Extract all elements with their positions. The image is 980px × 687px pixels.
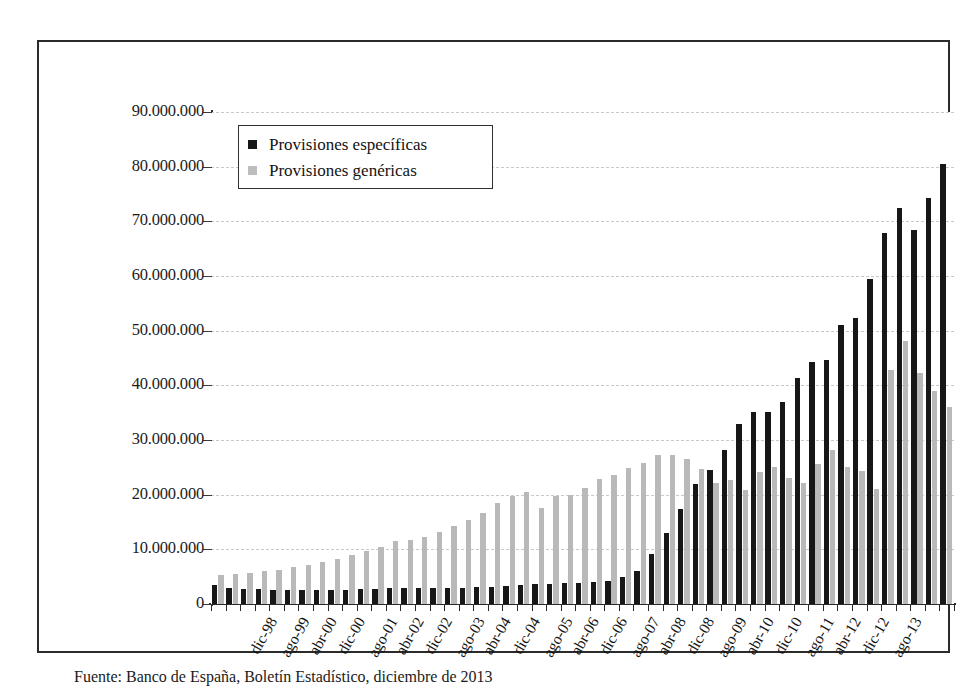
y-axis-tick-label: 30.000.000 bbox=[132, 429, 204, 449]
x-axis-tick bbox=[765, 605, 766, 611]
bar-specific bbox=[882, 233, 887, 604]
x-axis-tick-label: ago-05 bbox=[539, 614, 576, 660]
bar-generic bbox=[626, 468, 631, 604]
bar-specific bbox=[736, 424, 741, 604]
legend-item-generic: Provisiones genéricas bbox=[248, 157, 482, 183]
x-axis-tick bbox=[575, 605, 576, 611]
y-axis-tick bbox=[203, 276, 212, 277]
x-axis-tick bbox=[342, 605, 343, 611]
bar-specific bbox=[562, 583, 567, 604]
bar-generic bbox=[335, 559, 340, 604]
x-axis-tick bbox=[269, 605, 270, 611]
bar-generic bbox=[670, 455, 675, 604]
y-axis-tick-label: 50.000.000 bbox=[132, 320, 204, 340]
bar-specific bbox=[518, 585, 523, 604]
bar-generic bbox=[874, 489, 879, 604]
x-axis-tick bbox=[546, 605, 547, 611]
x-axis-tick-label: ago-09 bbox=[714, 614, 751, 660]
bar-generic bbox=[218, 575, 223, 604]
x-axis-tick bbox=[502, 605, 503, 611]
bar-specific bbox=[678, 509, 683, 604]
bar-specific bbox=[241, 589, 246, 604]
gridline bbox=[211, 276, 954, 277]
bar-specific bbox=[430, 588, 435, 604]
x-axis-tick bbox=[881, 605, 882, 611]
x-axis-tick bbox=[910, 605, 911, 611]
x-axis-tick bbox=[459, 605, 460, 611]
x-axis-tick bbox=[371, 605, 372, 611]
y-axis-tick-label: 10.000.000 bbox=[132, 538, 204, 558]
bar-specific bbox=[256, 589, 261, 604]
bar-specific bbox=[926, 198, 931, 604]
y-axis-tick bbox=[203, 549, 212, 550]
bar-generic bbox=[684, 459, 689, 604]
x-axis-tick-label: ago-07 bbox=[627, 614, 664, 660]
bar-generic bbox=[539, 508, 544, 604]
bar-generic bbox=[655, 455, 660, 604]
bar-generic bbox=[713, 483, 718, 604]
x-axis-tick bbox=[590, 605, 591, 611]
bar-specific bbox=[795, 378, 800, 604]
bar-specific bbox=[372, 589, 377, 604]
bar-specific bbox=[445, 588, 450, 604]
x-axis-tick bbox=[867, 605, 868, 611]
bar-generic bbox=[859, 471, 864, 604]
bar-specific bbox=[634, 571, 639, 604]
x-axis-tick bbox=[794, 605, 795, 611]
x-axis-tick bbox=[473, 605, 474, 611]
legend-label-specific: Provisiones específicas bbox=[269, 136, 427, 153]
bar-specific bbox=[722, 450, 727, 604]
bar-generic bbox=[815, 464, 820, 604]
bar-generic bbox=[262, 571, 267, 604]
x-axis-tick bbox=[925, 605, 926, 611]
bar-generic bbox=[451, 526, 456, 604]
bar-specific bbox=[343, 590, 348, 604]
bar-specific bbox=[897, 208, 902, 604]
bar-generic bbox=[495, 503, 500, 604]
bar-specific bbox=[867, 279, 872, 604]
legend-swatch-generic-icon bbox=[248, 166, 257, 175]
x-axis-tick bbox=[517, 605, 518, 611]
x-axis-tick bbox=[677, 605, 678, 611]
y-axis-tick-label: 80.000.000 bbox=[132, 156, 204, 176]
x-axis-tick bbox=[255, 605, 256, 611]
bar-specific bbox=[270, 590, 275, 604]
x-axis-tick bbox=[692, 605, 693, 611]
bar-specific bbox=[401, 588, 406, 604]
x-axis-tick bbox=[532, 605, 533, 611]
x-axis-tick bbox=[663, 605, 664, 611]
bar-generic bbox=[801, 483, 806, 604]
bar-specific bbox=[532, 584, 537, 604]
x-axis-tick bbox=[823, 605, 824, 611]
bar-generic bbox=[306, 565, 311, 604]
bar-generic bbox=[524, 492, 529, 604]
x-axis-tick bbox=[604, 605, 605, 611]
x-axis-tick bbox=[750, 605, 751, 611]
bar-specific bbox=[547, 584, 552, 604]
bar-generic bbox=[917, 373, 922, 604]
bar-specific bbox=[474, 587, 479, 604]
x-axis-tick-label: ago-13 bbox=[889, 614, 926, 660]
legend-item-specific: Provisiones específicas bbox=[248, 131, 482, 157]
x-axis-tick bbox=[954, 605, 955, 611]
bar-generic bbox=[437, 532, 442, 604]
x-axis-tick bbox=[488, 605, 489, 611]
x-axis-tick bbox=[313, 605, 314, 611]
bar-specific bbox=[576, 583, 581, 604]
bar-specific bbox=[780, 402, 785, 604]
y-axis-tick-label: 0 bbox=[196, 593, 204, 613]
x-axis-tick bbox=[430, 605, 431, 611]
bar-generic bbox=[553, 496, 558, 604]
y-axis-tick-label: 60.000.000 bbox=[132, 265, 204, 285]
x-axis-tick bbox=[357, 605, 358, 611]
bar-generic bbox=[422, 537, 427, 604]
bar-generic bbox=[364, 551, 369, 604]
bar-generic bbox=[728, 480, 733, 604]
x-axis-tick bbox=[706, 605, 707, 611]
bar-generic bbox=[743, 490, 748, 604]
bar-generic bbox=[349, 555, 354, 604]
y-axis-tick bbox=[203, 331, 212, 332]
bar-generic bbox=[510, 496, 515, 604]
gridline bbox=[211, 221, 954, 222]
bar-generic bbox=[611, 475, 616, 604]
